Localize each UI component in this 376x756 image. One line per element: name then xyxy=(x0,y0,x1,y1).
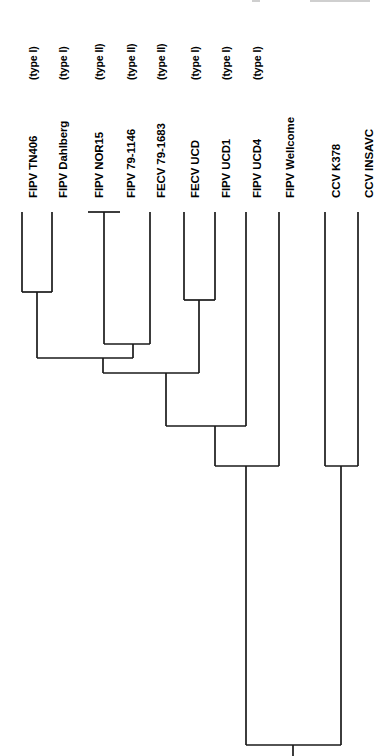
tree-lines-group xyxy=(22,212,358,756)
